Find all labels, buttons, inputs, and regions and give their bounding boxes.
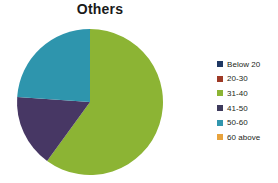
legend-item[interactable]: Below 20 [217,57,278,72]
chart-legend: Below 2020-3031-4041-5050-6060 above [217,57,278,145]
legend-swatch-icon [217,105,223,111]
legend-item[interactable]: 20-30 [217,72,278,87]
legend-swatch-icon [217,134,223,140]
pie-chart-figure: Others Below 2020-3031-4041-5050-6060 ab… [0,0,278,183]
legend-item-label: 60 above [227,133,260,142]
legend-item[interactable]: 31-40 [217,86,278,101]
pie-svg [0,22,200,183]
pie-plot-area [0,22,200,183]
pie-slice-50-60[interactable] [17,29,90,102]
legend-swatch-icon [217,120,223,126]
chart-title: Others [0,1,200,17]
legend-item-label: Below 20 [227,60,260,69]
legend-item[interactable]: 60 above [217,130,278,145]
legend-swatch-icon [217,76,223,82]
pie-slice-group [17,29,163,175]
legend-swatch-icon [217,61,223,67]
legend-item[interactable]: 50-60 [217,115,278,130]
legend-swatch-icon [217,90,223,96]
legend-item-label: 20-30 [227,74,248,83]
legend-item-label: 31-40 [227,89,248,98]
legend-item[interactable]: 41-50 [217,101,278,116]
legend-item-label: 41-50 [227,104,248,113]
legend-item-label: 50-60 [227,118,248,127]
